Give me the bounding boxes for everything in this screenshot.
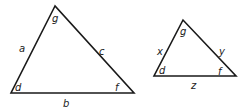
small-side-z: z [190, 80, 197, 91]
large-angle-d: d [15, 82, 22, 93]
small-side-x: x [156, 46, 163, 57]
similar-triangles-diagram: g d f a c b g d f x y z [0, 0, 238, 112]
large-triangle-outline [11, 6, 134, 93]
large-side-a: a [19, 43, 25, 54]
small-side-y: y [218, 46, 226, 57]
large-side-b: b [63, 98, 69, 109]
large-angle-g: g [52, 13, 58, 24]
large-triangle: g d f a c b [11, 6, 134, 109]
small-angle-g: g [180, 26, 186, 37]
small-triangle: g d f x y z [154, 20, 236, 91]
large-side-c: c [99, 46, 105, 57]
large-angle-f: f [115, 82, 120, 93]
small-angle-d: d [159, 65, 166, 76]
